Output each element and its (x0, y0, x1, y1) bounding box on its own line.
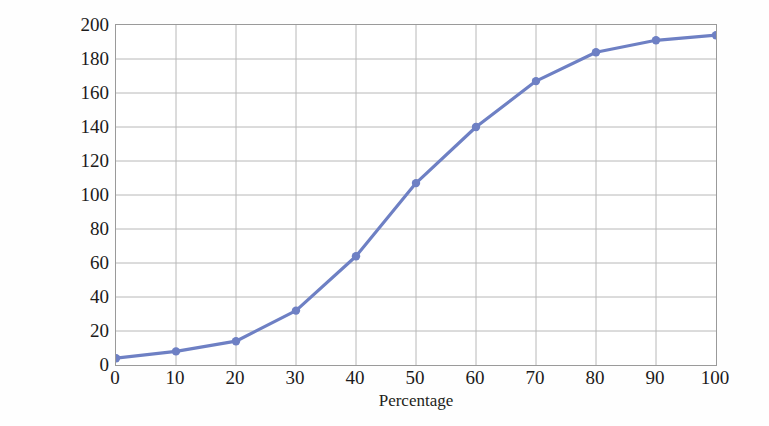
x-tick-label: 80 (565, 368, 625, 387)
data-point-marker (652, 36, 660, 44)
plot-svg (116, 25, 716, 365)
x-tick-label: 100 (685, 368, 745, 387)
x-tick-label: 0 (85, 368, 145, 387)
data-point-marker (116, 354, 120, 362)
x-tick-label: 30 (265, 368, 325, 387)
x-axis-title: Percentage (115, 391, 717, 411)
x-tick-label: 50 (385, 368, 445, 387)
x-tick-label: 90 (625, 368, 685, 387)
data-point-marker (592, 48, 600, 56)
x-tick-label: 70 (505, 368, 565, 387)
grid-lines (116, 25, 716, 365)
x-tick-label: 10 (145, 368, 205, 387)
data-point-marker (412, 179, 420, 187)
data-point-marker (232, 337, 240, 345)
data-point-marker (172, 347, 180, 355)
data-point-marker (472, 123, 480, 131)
x-tick-label: 20 (205, 368, 265, 387)
data-point-marker (712, 31, 716, 39)
x-tick-label: 40 (325, 368, 385, 387)
data-point-marker (532, 77, 540, 85)
cumulative-frequency-chart: Cumulative frequency 0204060801001201401… (0, 0, 769, 426)
plot-area (115, 24, 717, 366)
data-point-marker (292, 306, 300, 314)
x-tick-label: 60 (445, 368, 505, 387)
data-point-marker (352, 252, 360, 260)
